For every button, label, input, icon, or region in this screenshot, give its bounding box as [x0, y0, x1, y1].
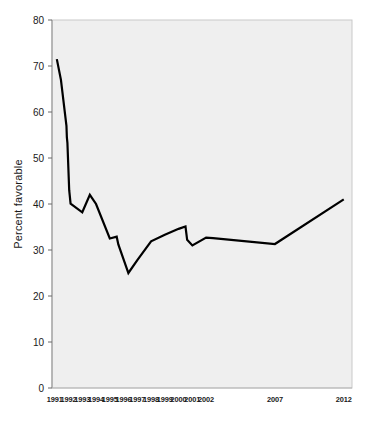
- y-tick-label: 80: [33, 15, 45, 26]
- line-chart: 80706050403020100 1991199219931994199519…: [0, 0, 370, 432]
- y-tick-label: 40: [33, 199, 45, 210]
- y-tick-label: 10: [33, 337, 45, 348]
- y-tick-label: 30: [33, 245, 45, 256]
- y-tick-label: 60: [33, 107, 45, 118]
- x-tick-label: 2012: [336, 395, 352, 404]
- chart-figure: 80706050403020100 1991199219931994199519…: [0, 0, 370, 432]
- y-tick-label: 50: [33, 153, 45, 164]
- y-axis-label: Percent favorable: [12, 159, 24, 249]
- y-tick-label: 70: [33, 61, 45, 72]
- y-tick-label: 0: [38, 383, 44, 394]
- x-axis-ticks: 1991199219931994199519961997199819992000…: [47, 395, 352, 404]
- x-tick-label: 2007: [267, 395, 283, 404]
- y-tick-label: 20: [33, 291, 45, 302]
- x-tick-label: 2002: [198, 395, 214, 404]
- y-axis-ticks: 80706050403020100: [33, 15, 52, 394]
